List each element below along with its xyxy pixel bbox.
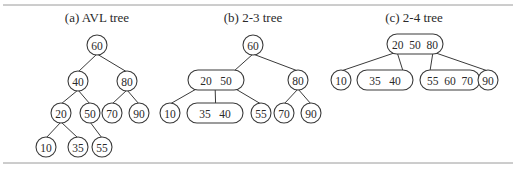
tree-node: 20: [51, 103, 71, 123]
tree-node: 35 40: [357, 70, 413, 90]
node-label: 90: [305, 108, 317, 120]
tree-node: 40: [68, 71, 88, 91]
node-label: 10: [335, 75, 347, 87]
edge: [253, 54, 298, 71]
node-label: 20 50 80: [392, 39, 438, 51]
edge: [433, 52, 488, 71]
node-label: 60: [91, 40, 103, 52]
node-label: 80: [292, 75, 304, 87]
panel-two-three: (b) 2-3 tree6020 50801035 40557090: [160, 10, 321, 124]
edge: [284, 89, 298, 104]
node-label: 20 50: [200, 75, 232, 87]
tree-node: 60: [87, 35, 107, 55]
edge: [397, 52, 403, 71]
node-label: 90: [482, 75, 494, 87]
edge: [61, 90, 78, 104]
tree-node: 55 60 70: [420, 70, 480, 90]
tree-node: 90: [129, 103, 149, 123]
edge: [341, 52, 397, 71]
node-label: 35 40: [369, 75, 401, 87]
node-label: 70: [106, 108, 118, 120]
tree-node: 20 50: [188, 70, 244, 90]
edge: [234, 88, 261, 104]
tree-node: 50: [80, 103, 100, 123]
panel-avl: (a) AVL tree60408020507090103555: [36, 10, 149, 158]
tree-node: 90: [478, 70, 498, 90]
node-label: 35 40: [199, 108, 231, 120]
tree-node: 55: [92, 137, 112, 157]
panel-title: (a) AVL tree: [65, 10, 129, 25]
tree-node: 90: [301, 103, 321, 123]
tree-node: 10: [160, 103, 180, 123]
panel-two-four: (c) 2-4 tree20 50 801035 4055 60 7090: [331, 10, 498, 91]
edge: [234, 54, 253, 71]
node-label: 60: [247, 40, 259, 52]
edges: [46, 54, 139, 138]
node-label: 55: [255, 108, 267, 120]
tree-node: 10: [36, 137, 56, 157]
tree-node: 60: [243, 35, 263, 55]
node-label: 40: [72, 76, 84, 88]
edges: [341, 52, 488, 71]
panel-title: (b) 2-3 tree: [224, 10, 283, 25]
edge: [298, 89, 311, 104]
tree-node: 35 40: [187, 103, 243, 123]
edge: [46, 122, 61, 138]
panels: (a) AVL tree60408020507090103555(b) 2-3 …: [36, 10, 498, 158]
edge: [90, 122, 102, 138]
edge: [78, 54, 97, 72]
tree-node: 80: [117, 71, 137, 91]
edge: [97, 54, 127, 72]
panel-title: (c) 2-4 tree: [385, 10, 443, 25]
edge: [170, 88, 198, 104]
edge: [61, 122, 78, 138]
tree-node: 55: [251, 103, 271, 123]
edge: [127, 90, 139, 104]
node-label: 20: [55, 108, 67, 120]
tree-node: 35: [68, 137, 88, 157]
tree-node: 70: [102, 103, 122, 123]
edge: [112, 90, 127, 104]
node-label: 90: [133, 108, 145, 120]
node-label: 10: [164, 108, 176, 120]
node-label: 70: [278, 108, 290, 120]
node-label: 50: [84, 108, 96, 120]
node-label: 55: [96, 142, 108, 154]
tree-node: 10: [331, 70, 351, 90]
tree-comparison-figure: (a) AVL tree60408020507090103555(b) 2-3 …: [0, 0, 516, 171]
node-label: 35: [72, 142, 84, 154]
tree-node: 20 50 80: [387, 34, 443, 54]
edge: [430, 52, 433, 71]
node-label: 10: [40, 142, 52, 154]
node-label: 55 60 70: [427, 75, 473, 87]
node-label: 80: [121, 76, 133, 88]
tree-node: 80: [288, 70, 308, 90]
edge: [78, 90, 90, 104]
tree-node: 70: [274, 103, 294, 123]
